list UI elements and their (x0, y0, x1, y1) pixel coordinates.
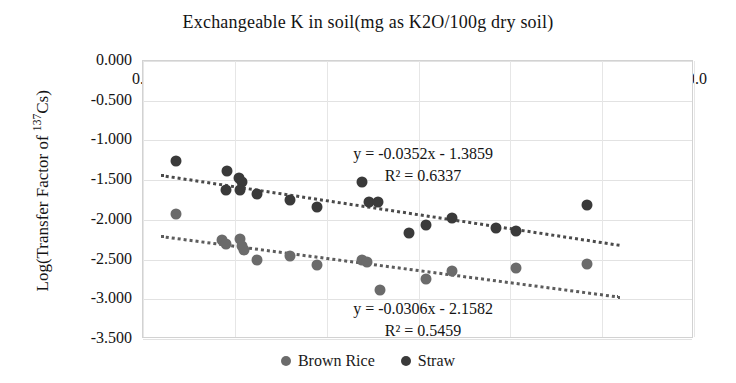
data-point-straw (222, 165, 233, 176)
data-point-brown-rice (374, 284, 385, 295)
legend-item-straw[interactable]: Straw (401, 352, 455, 370)
gridline-vertical (510, 61, 511, 337)
straw-equation-annotation: y = -0.0352x - 1.3859 R² = 0.6337 (353, 143, 493, 187)
brown-rice-equation-text: y = -0.0306x - 2.1582 (353, 298, 493, 320)
gridline-vertical (143, 61, 144, 337)
y-axis-tick-label: -3.000 (40, 289, 132, 307)
scatter-chart: Exchangeable K in soil(mg as K2O/100g dr… (0, 0, 736, 383)
chart-title: Exchangeable K in soil(mg as K2O/100g dr… (0, 12, 736, 33)
data-point-brown-rice (251, 254, 262, 265)
data-point-brown-rice (362, 256, 373, 267)
data-point-straw (235, 185, 246, 196)
data-point-straw (251, 189, 262, 200)
data-point-straw (284, 195, 295, 206)
y-axis-tick-label: 0.000 (40, 51, 132, 69)
gridline-horizontal (143, 101, 692, 102)
data-point-brown-rice (312, 260, 323, 271)
data-point-brown-rice (420, 273, 431, 284)
data-point-brown-rice (284, 250, 295, 261)
data-point-straw (312, 202, 323, 213)
brown-rice-r-squared-text: R² = 0.5459 (353, 320, 493, 342)
data-point-brown-rice (446, 265, 457, 276)
gridline-horizontal (143, 61, 692, 62)
y-axis-title-superscript: 137 (31, 114, 44, 131)
y-axis-tick-label: -1.000 (40, 130, 132, 148)
data-point-straw (171, 156, 182, 167)
legend-label: Brown Rice (298, 352, 375, 370)
data-point-brown-rice (239, 245, 250, 256)
legend-item-brown-rice[interactable]: Brown Rice (281, 352, 375, 370)
y-axis-tick-label: -1.500 (40, 170, 132, 188)
data-point-straw (582, 199, 593, 210)
gridline-horizontal (143, 140, 692, 141)
y-axis-tick-label: -3.500 (40, 329, 132, 347)
chart-legend: Brown RiceStraw (0, 352, 736, 370)
straw-r-squared-text: R² = 0.6337 (353, 165, 493, 187)
legend-marker-icon (281, 356, 291, 366)
data-point-brown-rice (171, 208, 182, 219)
data-point-straw (220, 184, 231, 195)
gridline-vertical (694, 61, 695, 337)
data-point-straw (490, 222, 501, 233)
y-axis-tick-label: -2.000 (40, 210, 132, 228)
data-point-brown-rice (510, 263, 521, 274)
data-point-straw (420, 219, 431, 230)
plot-area (142, 60, 693, 338)
gridline-vertical (419, 61, 420, 337)
data-point-straw (373, 197, 384, 208)
gridline-horizontal (143, 260, 692, 261)
data-point-straw (510, 225, 521, 236)
data-point-straw (404, 228, 415, 239)
data-point-brown-rice (582, 258, 593, 269)
data-point-straw (446, 213, 457, 224)
legend-label: Straw (418, 352, 455, 370)
straw-equation-text: y = -0.0352x - 1.3859 (353, 143, 493, 165)
gridline-vertical (235, 61, 236, 337)
brown-rice-equation-annotation: y = -0.0306x - 2.1582 R² = 0.5459 (353, 298, 493, 342)
y-axis-tick-label: -0.500 (40, 91, 132, 109)
gridline-horizontal (143, 220, 692, 221)
y-axis-tick-label: -2.500 (40, 250, 132, 268)
data-point-brown-rice (220, 238, 231, 249)
legend-marker-icon (401, 356, 411, 366)
